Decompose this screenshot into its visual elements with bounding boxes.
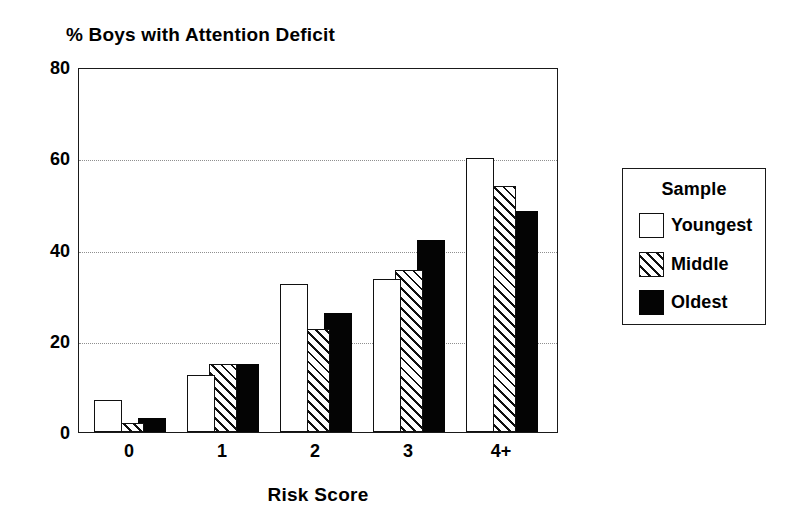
bar-risk0-youngest: [94, 400, 122, 432]
chart-title: % Boys with Attention Deficit: [66, 24, 335, 46]
chart-figure: % Boys with Attention Deficit 80 60 40 2…: [0, 0, 794, 527]
x-tick-label-0: 0: [124, 441, 134, 462]
white-square-icon: [639, 213, 664, 238]
legend-label-oldest: Oldest: [671, 292, 728, 313]
legend: Sample Youngest Middle Oldest: [622, 168, 766, 325]
y-tick-label-80: 80: [50, 58, 70, 79]
x-axis: 0 1 2 3 4+: [78, 441, 558, 471]
x-tick-label-4plus: 4+: [491, 441, 512, 462]
legend-title: Sample: [623, 179, 765, 200]
y-axis: 80 60 40 20 0: [26, 68, 70, 433]
x-tick-label-2: 2: [310, 441, 320, 462]
x-tick-label-3: 3: [403, 441, 413, 462]
bar-risk1-youngest: [187, 375, 215, 432]
black-square-icon: [639, 290, 664, 315]
bar-risk2-youngest: [280, 284, 308, 432]
x-tick-label-1: 1: [217, 441, 227, 462]
hatched-square-icon: [639, 252, 664, 277]
y-tick-label-20: 20: [50, 331, 70, 352]
y-tick-label-0: 0: [60, 423, 70, 444]
legend-item-youngest: Youngest: [639, 213, 752, 238]
legend-item-middle: Middle: [639, 252, 729, 277]
plot-area: [78, 68, 558, 433]
y-tick-label-40: 40: [50, 240, 70, 261]
legend-label-middle: Middle: [671, 254, 729, 275]
legend-item-oldest: Oldest: [639, 290, 728, 315]
y-tick-label-60: 60: [50, 149, 70, 170]
legend-label-youngest: Youngest: [671, 215, 752, 236]
bar-risk4plus-youngest: [466, 158, 494, 432]
bar-risk3-youngest: [373, 279, 401, 432]
x-axis-title: Risk Score: [78, 484, 558, 506]
